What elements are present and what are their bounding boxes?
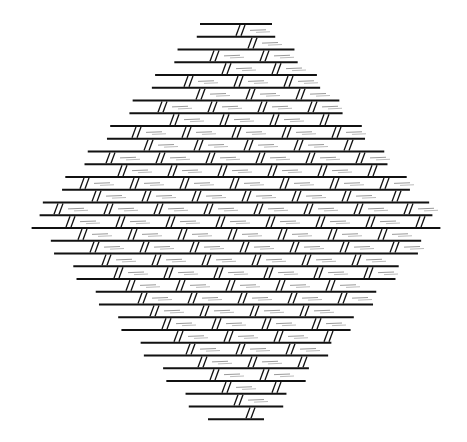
hatch-mark bbox=[214, 310, 230, 311]
hatch-mark bbox=[116, 259, 132, 260]
hatch-mark bbox=[256, 32, 270, 33]
hatch-mark bbox=[322, 106, 338, 107]
hatch-mark bbox=[256, 351, 270, 352]
hatch-mark bbox=[92, 234, 108, 235]
hatch-mark bbox=[314, 310, 330, 311]
hatch-mark bbox=[196, 287, 210, 288]
hatch-mark bbox=[194, 183, 210, 184]
hatch-mark bbox=[288, 336, 304, 337]
hatch-mark bbox=[410, 249, 424, 250]
hatch-mark bbox=[94, 183, 110, 184]
hatch-mark bbox=[376, 159, 390, 160]
hatch-mark bbox=[424, 210, 438, 211]
hatch-mark bbox=[276, 159, 290, 160]
hatch-mark bbox=[212, 361, 228, 362]
hatch-mark bbox=[194, 338, 208, 339]
hatch-mark bbox=[176, 323, 192, 324]
hatch-mark bbox=[268, 363, 282, 364]
hatch-mark bbox=[188, 336, 204, 337]
hatch-mark bbox=[126, 159, 140, 160]
hatch-mark bbox=[260, 249, 274, 250]
hatch-mark bbox=[140, 285, 156, 286]
hatch-mark bbox=[404, 247, 420, 248]
hatch-mark bbox=[338, 172, 352, 173]
hatch-mark bbox=[218, 363, 232, 364]
hatch-mark bbox=[128, 272, 144, 273]
hatch-mark bbox=[184, 274, 198, 275]
hatch-mark bbox=[156, 196, 172, 197]
hatch-mark bbox=[352, 134, 366, 135]
hatch-mark bbox=[356, 196, 372, 197]
hatch-mark bbox=[222, 106, 238, 107]
hatch-mark bbox=[68, 208, 84, 209]
hatch-mark bbox=[120, 157, 136, 158]
hatch-mark bbox=[110, 249, 124, 250]
hatch-mark bbox=[152, 134, 166, 135]
hatch-mark bbox=[206, 351, 220, 352]
hatch-mark bbox=[358, 300, 372, 301]
hatch-mark bbox=[378, 272, 394, 273]
hatch-mark bbox=[226, 159, 240, 160]
hatch-mark bbox=[292, 70, 306, 71]
hatch-mark bbox=[334, 274, 348, 275]
hatch-mark bbox=[330, 221, 346, 222]
hatch-mark bbox=[346, 132, 362, 133]
hatch-mark bbox=[174, 210, 188, 211]
hatch-mark bbox=[148, 236, 162, 237]
vertical-weave-strands bbox=[54, 25, 425, 418]
hatch-mark bbox=[286, 68, 302, 69]
hatch-mark bbox=[290, 121, 304, 122]
hatch-mark bbox=[236, 223, 250, 224]
hatch-mark bbox=[86, 223, 100, 224]
hatch-mark bbox=[240, 285, 256, 286]
hatch-mark bbox=[80, 221, 96, 222]
hatch-mark bbox=[268, 45, 282, 46]
hatch-mark bbox=[242, 234, 258, 235]
hatch-mark bbox=[374, 210, 388, 211]
hatch-mark bbox=[132, 170, 148, 171]
hatch-mark bbox=[152, 298, 168, 299]
hatch-mark bbox=[254, 83, 268, 84]
hatch-mark bbox=[234, 119, 250, 120]
hatch-mark bbox=[288, 172, 302, 173]
hatch-mark bbox=[296, 132, 312, 133]
hatch-mark bbox=[212, 198, 226, 199]
hatch-mark bbox=[252, 134, 266, 135]
hatch-mark bbox=[254, 247, 270, 248]
hatch-mark bbox=[290, 285, 306, 286]
hatch-mark bbox=[98, 236, 112, 237]
hatch-mark bbox=[276, 323, 292, 324]
hatch-mark bbox=[324, 210, 338, 211]
hatch-mark bbox=[282, 170, 298, 171]
hatch-mark bbox=[294, 183, 310, 184]
hatch-mark bbox=[182, 170, 198, 171]
hatch-mark bbox=[224, 55, 240, 56]
hatch-mark bbox=[328, 108, 342, 109]
hatch-mark bbox=[272, 261, 286, 262]
hatch-mark bbox=[160, 249, 174, 250]
hatch-mark bbox=[172, 106, 188, 107]
hatch-mark bbox=[308, 300, 322, 301]
hatch-mark bbox=[168, 208, 184, 209]
hatch-mark bbox=[342, 234, 358, 235]
hatch-mark bbox=[170, 312, 184, 313]
hatch-mark bbox=[200, 349, 216, 350]
hatch-mark bbox=[138, 172, 152, 173]
hatch-mark bbox=[216, 259, 232, 260]
hatch-mark bbox=[384, 274, 398, 275]
hatch-mark bbox=[274, 374, 290, 375]
hatch-mark bbox=[204, 83, 218, 84]
hatch-mark bbox=[300, 349, 316, 350]
hatch-mark bbox=[118, 208, 134, 209]
hatch-mark bbox=[100, 185, 114, 186]
hatch-mark bbox=[198, 236, 212, 237]
hatch-mark bbox=[224, 374, 240, 375]
hatch-mark bbox=[210, 249, 224, 250]
hatch-mark bbox=[332, 170, 348, 171]
hatch-mark bbox=[266, 96, 280, 97]
hatch-mark bbox=[260, 94, 276, 95]
hatch-mark bbox=[216, 96, 230, 97]
hatch-mark bbox=[278, 108, 292, 109]
hatch-mark bbox=[394, 183, 410, 184]
hatch-mark bbox=[242, 389, 256, 390]
